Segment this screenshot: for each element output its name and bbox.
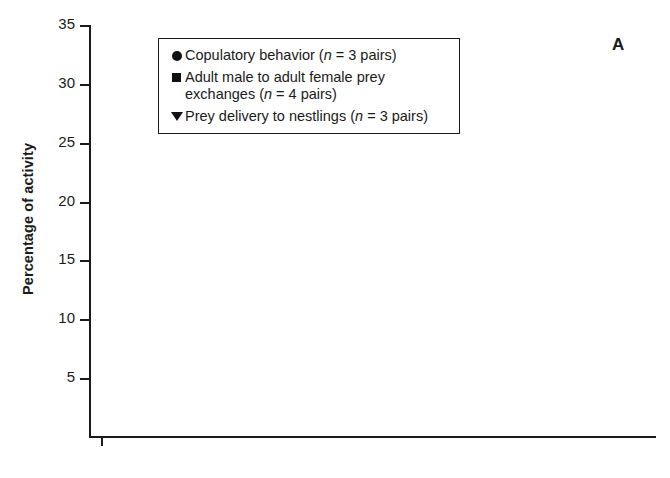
panel-letter: A <box>612 35 624 55</box>
legend-item: Copulatory behavior (n = 3 pairs) <box>168 47 450 65</box>
legend-item: Adult male to adult female prey exchange… <box>168 69 450 104</box>
y-axis-tick: 10 <box>80 319 89 321</box>
y-axis-tick-label: 35 <box>43 15 75 33</box>
filled-circle-icon <box>168 47 185 65</box>
y-axis-tick-label: 30 <box>43 74 75 92</box>
figure-panel-a: Percentage of activity 5101520253035 Cop… <box>0 0 670 478</box>
filled-triangle-down-icon-shape <box>171 112 183 121</box>
y-axis-tick-label: 15 <box>43 250 75 268</box>
legend-item: Prey delivery to nestlings (n = 3 pairs) <box>168 108 450 126</box>
y-axis-title-text: Percentage of activity <box>20 142 36 294</box>
y-axis-tick-label: 10 <box>43 309 75 327</box>
y-axis-tick: 35 <box>80 25 89 27</box>
y-axis-title: Percentage of activity <box>10 0 46 437</box>
filled-circle-icon-shape <box>172 51 182 61</box>
legend: Copulatory behavior (n = 3 pairs)Adult m… <box>158 38 460 134</box>
legend-item-label: Copulatory behavior (n = 3 pairs) <box>185 47 450 65</box>
y-axis-tick: 5 <box>80 378 89 380</box>
y-axis-tick-label: 25 <box>43 133 75 151</box>
y-axis-tick: 25 <box>80 143 89 145</box>
legend-item-label: Prey delivery to nestlings (n = 3 pairs) <box>185 108 450 126</box>
legend-item-label: Adult male to adult female prey exchange… <box>185 69 450 104</box>
y-axis-tick-label: 20 <box>43 192 75 210</box>
y-axis-tick: 15 <box>80 260 89 262</box>
filled-square-icon-shape <box>172 73 181 82</box>
x-axis-tick-minor <box>101 437 103 446</box>
y-axis-tick: 20 <box>80 202 89 204</box>
filled-triangle-down-icon <box>168 108 185 126</box>
filled-square-icon <box>168 69 185 87</box>
y-axis-tick-label: 5 <box>43 368 75 386</box>
y-axis-tick: 30 <box>80 84 89 86</box>
